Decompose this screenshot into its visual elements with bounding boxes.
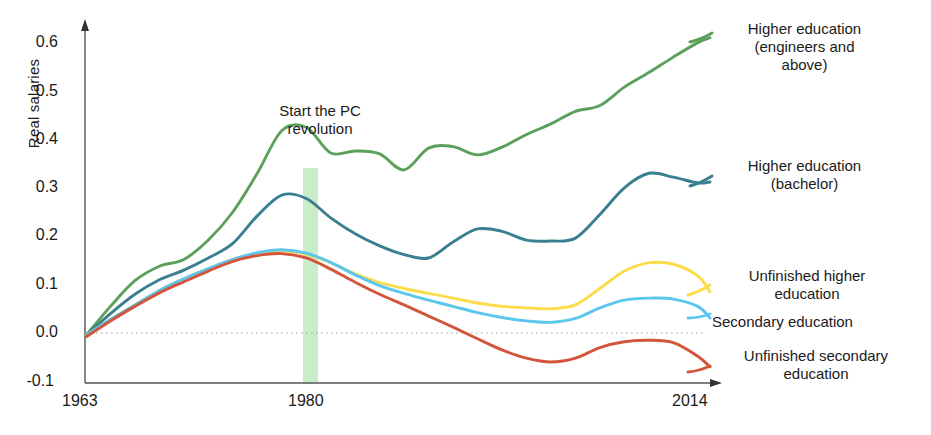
- legend-label-unfinished-secondary-education: Unfinished secondary education: [710, 347, 922, 383]
- legend-line-1: Secondary education: [712, 313, 922, 331]
- y-tick-4: 0.2: [12, 226, 58, 244]
- chart-root: Real salaries 0.6 0.5 0.4 0.3 0.2 0.1 0.…: [0, 0, 931, 435]
- legend-label-higher-education-bachelor: Higher education (bachelor): [712, 157, 897, 193]
- legend-label-secondary-education: Secondary education: [712, 313, 922, 331]
- series-group: [86, 38, 710, 367]
- x-axis: [85, 379, 722, 387]
- legend-line-2: education: [710, 365, 922, 383]
- y-tick-1: 0.5: [12, 82, 58, 100]
- legend-line-3: above): [712, 56, 897, 74]
- legend-swatch-3: [688, 314, 710, 318]
- legend-line-1: Higher education: [712, 20, 897, 38]
- pc-revolution-annotation: Start the PC revolution: [258, 102, 382, 138]
- x-tick-1980: 1980: [288, 392, 324, 410]
- y-tick-7: -0.1: [8, 372, 54, 390]
- series-line-1: [86, 173, 710, 336]
- legend-swatches: [688, 33, 712, 372]
- legend-line-1: Higher education: [712, 157, 897, 175]
- y-axis-title: Real salaries: [25, 39, 42, 169]
- y-axis: [81, 19, 89, 383]
- legend-line-1: Unfinished higher: [712, 267, 902, 285]
- legend-line-1: Unfinished secondary: [710, 347, 922, 365]
- y-tick-5: 0.1: [12, 275, 58, 293]
- legend-line-2: education: [712, 285, 902, 303]
- legend-line-2: (engineers and: [712, 38, 897, 56]
- x-tick-2014: 2014: [672, 392, 708, 410]
- legend-line-2: (bachelor): [712, 175, 897, 193]
- annotation-line-1: Start the PC: [258, 102, 382, 120]
- y-tick-3: 0.3: [12, 178, 58, 196]
- legend-label-unfinished-higher-education: Unfinished higher education: [712, 267, 902, 303]
- legend-swatch-2: [688, 285, 710, 295]
- legend-label-higher-education-engineers: Higher education (engineers and above): [712, 20, 897, 74]
- annotation-line-2: revolution: [258, 120, 382, 138]
- series-line-2: [86, 251, 710, 336]
- y-tick-6: 0.0: [12, 323, 58, 341]
- y-tick-2: 0.4: [12, 130, 58, 148]
- y-tick-0: 0.6: [12, 33, 58, 51]
- legend-swatch-4: [688, 366, 710, 372]
- x-tick-1963: 1963: [62, 392, 98, 410]
